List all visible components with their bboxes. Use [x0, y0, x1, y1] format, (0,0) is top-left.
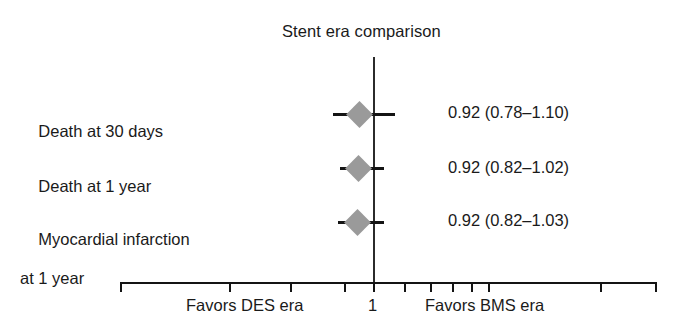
forest-plot: Stent era comparison Death at 30 days 0.… — [0, 0, 676, 327]
chart-title: Stent era comparison — [282, 22, 441, 41]
axis-tick — [452, 282, 454, 292]
row-label-myocardial-infarction-1-year: Myocardial infarction at 1 year — [20, 211, 190, 327]
row-label-death-30-days: Death at 30 days — [20, 103, 163, 161]
axis-tick — [471, 282, 473, 292]
axis-tick-label-one: 1 — [368, 296, 377, 315]
axis-tick — [120, 282, 122, 292]
axis-tick — [229, 282, 231, 292]
row-label-death-1-year: Death at 1 year — [20, 158, 151, 216]
null-effect-reference-line — [373, 57, 375, 289]
x-axis-line — [120, 282, 656, 284]
row-label-line-1: Death at 1 year — [38, 177, 151, 195]
row-label-line-2: at 1 year — [20, 269, 190, 288]
row-estimate-death-30-days: 0.92 (0.78–1.10) — [448, 103, 569, 122]
row-label-line-1: Myocardial infarction — [38, 230, 189, 248]
point-estimate-diamond — [344, 209, 371, 236]
axis-tick — [655, 282, 657, 292]
axis-caption-favors-bms: Favors BMS era — [425, 296, 544, 315]
point-estimate-diamond — [346, 101, 373, 128]
axis-tick — [373, 282, 375, 292]
axis-caption-favors-des: Favors DES era — [186, 296, 303, 315]
point-estimate-diamond — [345, 155, 372, 182]
row-label-line-1: Death at 30 days — [38, 122, 163, 140]
axis-tick — [290, 282, 292, 292]
axis-tick — [404, 282, 406, 292]
axis-tick — [488, 282, 490, 292]
axis-tick — [600, 282, 602, 292]
row-estimate-death-1-year: 0.92 (0.82–1.02) — [448, 158, 569, 177]
axis-tick — [430, 282, 432, 292]
axis-tick — [344, 282, 346, 292]
row-estimate-myocardial-infarction-1-year: 0.92 (0.82–1.03) — [448, 211, 569, 230]
